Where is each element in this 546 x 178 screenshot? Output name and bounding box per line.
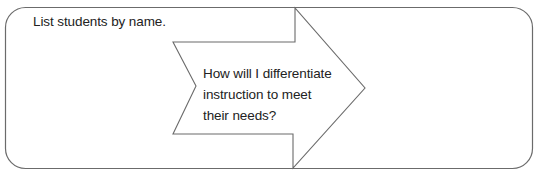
question-line-2: instruction to meet: [203, 84, 343, 105]
question-line-3: their needs?: [203, 105, 343, 126]
question-line-1: How will I differentiate: [203, 63, 343, 84]
differentiation-question: How will I differentiate instruction to …: [203, 63, 343, 126]
list-students-prompt: List students by name.: [33, 14, 166, 29]
